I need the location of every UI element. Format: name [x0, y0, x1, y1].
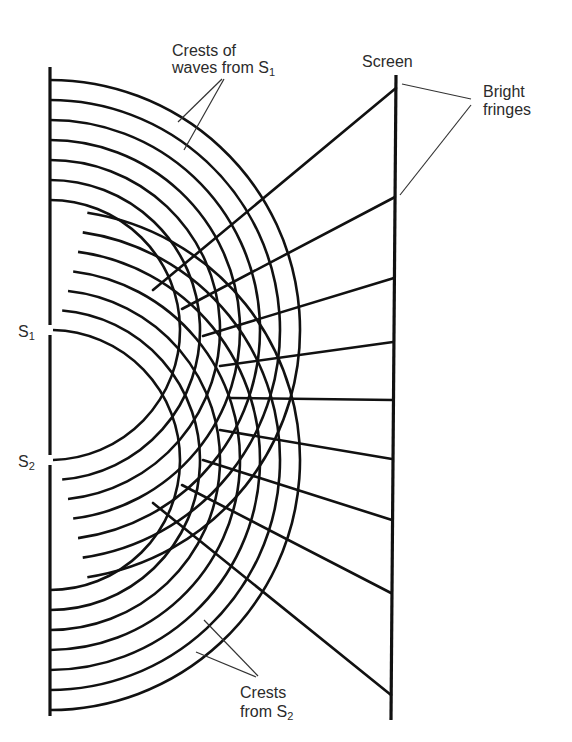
leader-line: [402, 84, 471, 99]
label-crests-s2-line1: Crests: [240, 684, 286, 701]
antinodal-ray: [220, 430, 392, 459]
antinodal-ray: [230, 398, 393, 400]
label-crests-s1-line2: waves from S1: [171, 59, 275, 78]
antinodal-ray: [182, 197, 395, 309]
leader-line: [184, 79, 224, 150]
wave-crest-s1: [50, 100, 280, 558]
wave-crest-s2: [50, 232, 280, 690]
label-bright-fringes-line2: fringes: [483, 101, 531, 118]
leader-line: [400, 105, 471, 195]
label-crests-s1-line1: Crests of: [172, 42, 237, 59]
antinodal-ray: [182, 485, 391, 593]
label-s2: S2: [18, 453, 35, 472]
wave-crest-s2: [50, 291, 220, 630]
label-crests-s2-line2: from S2: [240, 703, 293, 722]
interference-diagram: Crests of waves from S1 Screen Bright fr…: [0, 0, 572, 742]
leader-line: [204, 620, 258, 676]
antinodal-ray: [220, 342, 393, 366]
wave-crest-s1: [50, 160, 220, 499]
antinodal-lines: [153, 88, 396, 695]
leader-line: [178, 79, 222, 122]
label-bright-fringes-line1: Bright: [483, 83, 525, 100]
screen: [391, 75, 396, 720]
label-s1: S1: [18, 323, 35, 342]
label-screen: Screen: [362, 53, 413, 70]
